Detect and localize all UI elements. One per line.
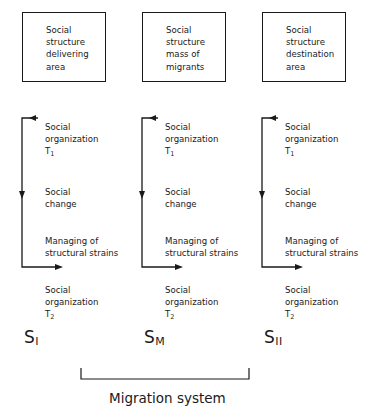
s: S	[264, 327, 275, 347]
text-line: structural strains	[45, 247, 118, 259]
text-line: organization	[165, 133, 218, 145]
social-organization-t2: Social organization T2	[45, 284, 98, 321]
system-label-s-i: SI	[24, 327, 39, 347]
text-line: change	[165, 198, 197, 210]
text-line: Social	[285, 284, 338, 296]
arrow-down-icon	[139, 191, 145, 199]
managing-structural-strains: Managing of structural strains	[285, 235, 358, 259]
s-sub: I	[35, 335, 39, 348]
text-line: Managing of	[45, 235, 118, 247]
time-label: T2	[45, 308, 98, 321]
text-line: Social	[285, 186, 317, 198]
t-sub: 2	[50, 313, 54, 321]
t-sub: 1	[170, 150, 174, 158]
s-sub: M	[155, 335, 165, 348]
arrow-left-icon	[269, 115, 276, 121]
system-label-s-ii: SII	[264, 327, 283, 347]
arrow-left-icon	[149, 115, 156, 121]
text-line: organization	[45, 133, 98, 145]
s: S	[144, 327, 155, 347]
text-line: structural strains	[165, 247, 238, 259]
arrow-right-icon	[175, 264, 183, 270]
t-sub: 1	[50, 150, 54, 158]
social-organization-t2: Social organization T2	[165, 284, 218, 321]
time-label: T1	[45, 145, 98, 158]
managing-structural-strains: Managing of structural strains	[165, 235, 238, 259]
managing-structural-strains: Managing of structural strains	[45, 235, 118, 259]
text-line: Social	[45, 284, 98, 296]
text-line: Managing of	[165, 235, 238, 247]
social-organization-t2: Social organization T2	[285, 284, 338, 321]
text-line: change	[45, 198, 77, 210]
t-sub: 2	[290, 313, 294, 321]
system-label-s-m: SM	[144, 327, 165, 347]
arrow-down-icon	[259, 191, 265, 199]
text-line: Social	[45, 186, 77, 198]
text-line: change	[285, 198, 317, 210]
text-line: organization	[165, 296, 218, 308]
t-sub: 1	[290, 150, 294, 158]
text-line: Managing of	[285, 235, 358, 247]
arrow-left-icon	[29, 115, 36, 121]
text-line: Social	[165, 121, 218, 133]
social-organization-t1: Social organization T1	[45, 121, 98, 158]
text-line: organization	[45, 296, 98, 308]
text-line: Social	[45, 121, 98, 133]
social-change: Social change	[165, 186, 197, 210]
arrow-right-icon	[295, 264, 303, 270]
social-organization-t1: Social organization T1	[285, 121, 338, 158]
time-label: T2	[165, 308, 218, 321]
text-line: structural strains	[285, 247, 358, 259]
arrow-down-icon	[19, 191, 25, 199]
social-organization-t1: Social organization T1	[165, 121, 218, 158]
time-label: T2	[285, 308, 338, 321]
text-line: Social	[285, 121, 338, 133]
s: S	[24, 327, 35, 347]
social-change: Social change	[45, 186, 77, 210]
t-sub: 2	[170, 313, 174, 321]
time-label: T1	[285, 145, 338, 158]
text-line: Social	[165, 186, 197, 198]
s-sub: II	[275, 335, 283, 348]
text-line: organization	[285, 133, 338, 145]
arrow-right-icon	[55, 264, 63, 270]
text-line: Social	[165, 284, 218, 296]
social-change: Social change	[285, 186, 317, 210]
migration-system-caption: Migration system	[109, 390, 226, 406]
migration-system-bracket	[81, 368, 249, 379]
time-label: T1	[165, 145, 218, 158]
text-line: organization	[285, 296, 338, 308]
